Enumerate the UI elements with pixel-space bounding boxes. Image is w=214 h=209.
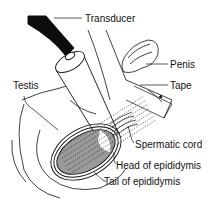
label-tape: Tape: [170, 80, 192, 91]
penis-outline: [122, 40, 158, 73]
label-penis: Penis: [170, 59, 195, 70]
label-testis: Testis: [13, 80, 39, 91]
label-head-of-epididymis: Head of epididymis: [116, 160, 201, 171]
ultrasound-diagram: Transducer Penis Tape Testis Spermatic c…: [0, 0, 214, 209]
transducer-cable: [28, 16, 74, 56]
label-spermatic-cord: Spermatic cord: [135, 139, 202, 150]
label-tail-of-epididymis: Tail of epididymis: [104, 176, 180, 187]
label-transducer: Transducer: [85, 13, 135, 24]
